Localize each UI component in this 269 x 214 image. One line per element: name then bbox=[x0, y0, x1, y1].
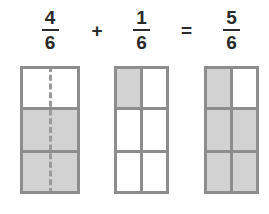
model-cell bbox=[20, 66, 50, 109]
fraction-4-6: 4 6 bbox=[42, 8, 59, 52]
equals-operator: = bbox=[169, 8, 204, 52]
sum-fraction: 5 6 bbox=[204, 8, 259, 52]
model-cell bbox=[20, 151, 50, 194]
model-cell bbox=[50, 109, 80, 152]
model-cell bbox=[232, 151, 260, 194]
first-fraction-numerator: 4 bbox=[43, 8, 58, 27]
sum-fraction-denominator: 6 bbox=[224, 33, 239, 52]
sum-fraction-numerator: 5 bbox=[224, 8, 239, 27]
model-cell bbox=[114, 151, 142, 194]
fraction-1-6: 1 6 bbox=[133, 8, 150, 52]
second-fraction-numerator: 1 bbox=[134, 8, 149, 27]
sum-fraction-bar bbox=[223, 29, 240, 31]
model-cell bbox=[114, 109, 142, 152]
model-cell bbox=[232, 66, 260, 109]
model-cell bbox=[142, 66, 170, 109]
plus-symbol: + bbox=[91, 21, 102, 40]
equals-symbol: = bbox=[181, 21, 192, 40]
fraction-worksheet: 4 6 + 1 6 = 5 6 bbox=[0, 0, 269, 214]
area-model-third bbox=[204, 66, 259, 194]
model-cell bbox=[142, 109, 170, 152]
model-cell bbox=[50, 151, 80, 194]
plus-operator: + bbox=[80, 8, 114, 52]
area-model-second-cells bbox=[114, 66, 169, 194]
first-fraction-denominator: 6 bbox=[43, 33, 58, 52]
second-fraction-bar bbox=[133, 29, 150, 31]
second-fraction: 1 6 bbox=[114, 8, 169, 52]
model-cell bbox=[204, 66, 232, 109]
equation: 4 6 + 1 6 = 5 6 bbox=[0, 8, 269, 52]
model-cell bbox=[204, 109, 232, 152]
model-cell bbox=[50, 66, 80, 109]
model-cell bbox=[114, 66, 142, 109]
area-model-first bbox=[20, 66, 80, 194]
area-model-second bbox=[114, 66, 169, 194]
fraction-5-6: 5 6 bbox=[223, 8, 240, 52]
first-fraction: 4 6 bbox=[20, 8, 80, 52]
area-model-third-cells bbox=[204, 66, 259, 194]
area-model-first-cells bbox=[20, 66, 80, 194]
model-cell bbox=[232, 109, 260, 152]
model-cell bbox=[204, 151, 232, 194]
second-fraction-denominator: 6 bbox=[134, 33, 149, 52]
first-fraction-bar bbox=[42, 29, 59, 31]
model-cell bbox=[20, 109, 50, 152]
model-cell bbox=[142, 151, 170, 194]
